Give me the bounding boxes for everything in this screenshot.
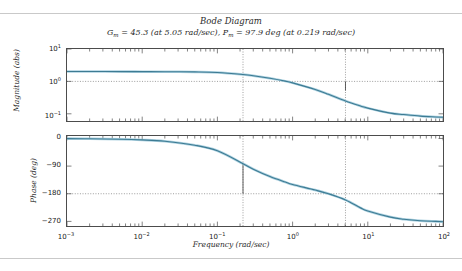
phase-ytick-1: −90 — [31, 161, 61, 169]
document-rule-bottom — [0, 258, 462, 259]
phase-axis-label: Phase (deg) — [29, 135, 38, 227]
phase-ytick-2: −180 — [31, 189, 61, 197]
phase-ytick-0: 0 — [31, 133, 61, 141]
magnitude-curve-halo — [67, 72, 443, 118]
magnitude-plot-svg — [67, 49, 443, 121]
phase-plot-svg — [67, 136, 443, 226]
magnitude-ytick-2: 10−1 — [31, 110, 61, 120]
log-tick-marks — [67, 49, 443, 121]
magnitude-axis-label: Magnitude (abs) — [12, 44, 21, 118]
phase-curve-halo — [67, 139, 443, 222]
gain-margin-value: = 45.3 (at 5.05 rad/sec), — [119, 28, 223, 37]
figure-title: Bode Diagram — [0, 16, 462, 27]
magnitude-plot-area — [67, 49, 443, 121]
bode-diagram-figure: Bode Diagram Gm = 45.3 (at 5.05 rad/sec)… — [0, 0, 462, 271]
phase-margin-value: = 97.9 deg (at 0.219 rad/sec) — [233, 28, 355, 37]
y-tick-marks — [67, 138, 443, 221]
magnitude-ytick-1: 100 — [31, 76, 61, 86]
log-tick-marks — [67, 136, 443, 226]
frequency-xtick-3: 100 — [278, 231, 308, 241]
phase-plot-axes — [66, 135, 444, 227]
frequency-xtick-4: 101 — [353, 231, 383, 241]
frequency-xtick-0: 10−3 — [51, 231, 81, 241]
magnitude-plot-axes — [66, 48, 444, 122]
figure-title-block: Bode Diagram Gm = 45.3 (at 5.05 rad/sec)… — [0, 16, 462, 41]
phase-curve — [67, 139, 443, 222]
phase-plot-area — [67, 136, 443, 226]
frequency-xtick-5: 102 — [429, 231, 459, 241]
magnitude-curve — [67, 72, 443, 118]
figure-subtitle: Gm = 45.3 (at 5.05 rad/sec), Pm = 97.9 d… — [0, 27, 462, 41]
document-rule-top — [0, 13, 462, 14]
y-tick-marks — [67, 49, 443, 114]
frequency-axis-label: Frequency (rad/sec) — [0, 240, 462, 249]
frequency-xtick-2: 10−1 — [202, 231, 232, 241]
magnitude-ytick-0: 101 — [31, 43, 61, 53]
phase-ytick-3: −270 — [31, 217, 61, 225]
frequency-xtick-1: 10−2 — [127, 231, 157, 241]
